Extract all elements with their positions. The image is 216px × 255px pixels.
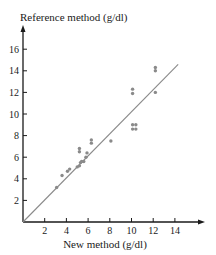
- x-tick-label: 10: [127, 225, 137, 236]
- y-tick-label: 14: [9, 65, 19, 76]
- data-point: [109, 139, 112, 142]
- x-axis-arrow-icon: [198, 220, 205, 225]
- y-axis-arrow-icon: [21, 25, 26, 32]
- data-point: [90, 141, 93, 144]
- data-point: [60, 174, 63, 177]
- data-point: [131, 87, 134, 90]
- data-point: [85, 151, 88, 154]
- data-point: [131, 123, 134, 126]
- data-point: [78, 150, 81, 153]
- data-point: [78, 164, 81, 167]
- data-point: [84, 156, 87, 159]
- scatter-chart: Reference method (g/dl) 2468101214162468…: [0, 0, 216, 255]
- x-tick-label: 14: [170, 225, 180, 236]
- y-axis-label: Reference method (g/dl): [20, 11, 128, 24]
- y-tick-label: 12: [9, 87, 19, 98]
- reference-line: [23, 64, 178, 222]
- y-tick-label: 16: [9, 44, 19, 55]
- data-point: [154, 91, 157, 94]
- x-tick-label: 2: [42, 225, 47, 236]
- data-point: [134, 127, 137, 130]
- x-axis-label: New method (g/dl): [63, 238, 147, 251]
- x-tick-label: 12: [148, 225, 158, 236]
- y-tick-label: 2: [14, 195, 19, 206]
- axes: 2468101214162468101214: [9, 25, 205, 236]
- x-tick-label: 8: [107, 225, 112, 236]
- data-points: [55, 66, 157, 189]
- data-point: [55, 186, 58, 189]
- x-tick-label: 6: [86, 225, 91, 236]
- data-point: [78, 147, 81, 150]
- data-point: [68, 167, 71, 170]
- y-tick-label: 6: [14, 152, 19, 163]
- data-point: [154, 66, 157, 69]
- y-tick-label: 8: [14, 130, 19, 141]
- x-tick-label: 4: [64, 225, 69, 236]
- y-tick-label: 10: [9, 109, 19, 120]
- data-point: [90, 138, 93, 141]
- data-point: [131, 92, 134, 95]
- data-point: [82, 160, 85, 163]
- data-point: [154, 69, 157, 72]
- y-tick-label: 4: [14, 173, 19, 184]
- data-point: [134, 123, 137, 126]
- data-point: [131, 127, 134, 130]
